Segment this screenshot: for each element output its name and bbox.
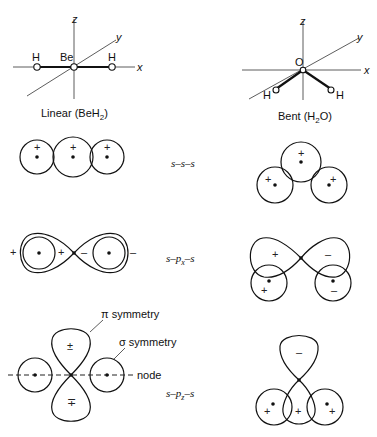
x-axis-label: x — [363, 64, 370, 76]
row-label-s-s-s: s–s–s — [171, 157, 195, 169]
plus-sign: + — [34, 141, 40, 153]
plus-sign: + — [330, 173, 336, 185]
nucleus — [105, 155, 109, 159]
plus-sign: + — [58, 246, 64, 258]
pi-leader-line — [90, 320, 103, 332]
nucleus — [105, 373, 109, 377]
minus-sign: – — [81, 246, 88, 258]
nucleus — [267, 279, 271, 283]
orbital-symmetry-diagram: H Be H z y x Linear (BeH2) O H H z y x B… — [0, 0, 377, 437]
row-label-s-pz-s: s–pz–s — [166, 387, 194, 402]
bond-right — [303, 70, 331, 89]
h-atom-left — [34, 64, 40, 70]
h-label-left: H — [32, 51, 40, 63]
plus-sign: + — [329, 405, 335, 417]
s-orbital-left — [251, 265, 287, 301]
linear-caption: Linear (BeH2) — [41, 107, 108, 122]
s-orbital-right — [307, 389, 343, 425]
minus-sign: – — [325, 248, 332, 260]
node-point — [297, 378, 301, 382]
nucleus — [331, 279, 335, 283]
y-axis-label: y — [356, 31, 364, 43]
sigma-symmetry-label: σ symmetry — [119, 336, 177, 348]
nucleus — [37, 251, 41, 255]
bent-h2o-molecule: O H H z y x Bent (H2O) — [242, 15, 370, 125]
nucleus — [299, 160, 303, 164]
row-s-pz-s: ± ∓ π symmetry σ symmetry node s–pz–s – … — [8, 308, 343, 425]
node-point — [72, 251, 76, 255]
minus-sign: – — [331, 284, 338, 296]
linear-s-px-s-orbitals: + + – – — [10, 233, 137, 272]
minus-sign: – — [130, 246, 137, 258]
nucleus — [107, 251, 111, 255]
node-point — [299, 256, 303, 260]
o-label: O — [295, 56, 304, 68]
nucleus — [273, 183, 277, 187]
linear-s-pz-s-orbitals: ± ∓ π symmetry σ symmetry node — [8, 308, 177, 421]
minus-plus-sign: ∓ — [67, 396, 76, 408]
linear-s-s-s-orbitals: + + + — [20, 137, 124, 177]
plus-sign: + — [264, 405, 270, 417]
minus-sign: – — [296, 346, 303, 358]
nucleus — [71, 155, 75, 159]
plus-sign: + — [295, 405, 301, 417]
h-label-right: H — [108, 51, 116, 63]
nucleus — [35, 155, 39, 159]
bent-s-s-s-orbitals: + + + — [257, 142, 347, 203]
y-axis-label: y — [115, 31, 123, 43]
pi-symmetry-label: π symmetry — [101, 308, 160, 320]
bent-caption: Bent (H2O) — [278, 110, 332, 125]
row-s-s-s: + + + s–s–s + + + — [20, 137, 347, 203]
be-atom — [71, 64, 77, 70]
row-label-s-px-s: s–px–s — [166, 252, 195, 267]
node-label: node — [137, 369, 161, 381]
x-axis-label: x — [136, 61, 143, 73]
bond-left — [276, 70, 303, 89]
node-point — [69, 373, 73, 377]
plus-sign: + — [104, 141, 110, 153]
nucleus — [271, 402, 275, 406]
linear-beh2-molecule: H Be H z y x Linear (BeH2) — [13, 13, 143, 122]
s-orbital-left — [256, 389, 292, 425]
plus-sign: + — [261, 284, 267, 296]
h-label-left: H — [263, 89, 271, 101]
plus-sign: + — [265, 173, 271, 185]
h-label-right: H — [336, 89, 344, 101]
z-axis-label: z — [71, 13, 78, 25]
bent-s-px-s-orbitals: + – + – — [250, 238, 351, 301]
h-atom-left — [273, 87, 279, 93]
plus-minus-sign: ± — [67, 340, 73, 352]
row-s-px-s: + + – – s–px–s + – + – — [10, 233, 351, 301]
o-atom — [300, 67, 306, 73]
nucleus — [33, 373, 37, 377]
h-atom-right — [109, 64, 115, 70]
be-label: Be — [60, 51, 73, 63]
plus-sign: + — [298, 147, 304, 159]
plus-sign: + — [272, 248, 278, 260]
z-axis-label: z — [299, 15, 306, 27]
bent-s-pz-s-orbitals: – + + + — [256, 336, 343, 426]
plus-sign: + — [10, 246, 16, 258]
plus-sign: + — [70, 141, 76, 153]
h-atom-right — [328, 87, 334, 93]
sigma-leader-line — [114, 348, 125, 359]
